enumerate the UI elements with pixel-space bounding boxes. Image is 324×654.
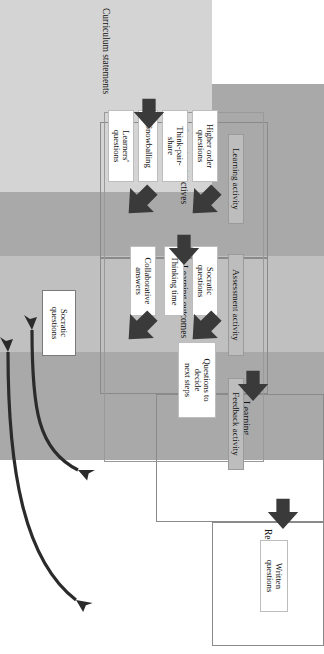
technique-label-questions-to-decide-next-steps: Questions to decide next steps xyxy=(183,358,211,401)
diagram-root: Curriculum statements Learning objective… xyxy=(0,0,324,654)
technique-label-learners-questions: Learners' questions xyxy=(112,130,131,162)
technique-label-thinking-time: Thinking time xyxy=(169,257,178,306)
technique-written-questions[interactable]: Written questions xyxy=(260,540,288,612)
activity-label-assessment-activity: Assessment activity xyxy=(232,269,241,341)
technique-think-pair-share[interactable]: Think-pair- share xyxy=(162,110,188,182)
technique-questions-to-decide-next-steps[interactable]: Questions to decide next steps xyxy=(178,342,216,418)
curved-arrow-to-reporting-head-end xyxy=(73,594,93,613)
activity-label-learning-activity: Learning activity xyxy=(232,148,241,210)
technique-thinking-time[interactable]: Thinking time xyxy=(164,246,184,316)
activity-assessment-activity[interactable]: Assessment activity xyxy=(228,254,244,356)
technique-label-written-questions: Written questions xyxy=(265,560,284,592)
activity-feedback-activity[interactable]: Feedback activity xyxy=(228,378,244,470)
activity-label-feedback-activity: Feedback activity xyxy=(232,392,241,456)
stage-label-curriculum-statements: Curriculum statements xyxy=(101,8,112,94)
technique-socratic-questions-side[interactable]: Socratic questions xyxy=(42,290,76,356)
technique-socratic-questions[interactable]: Socratic questions xyxy=(192,246,218,316)
diagram-canvas: Curriculum statements Learning objective… xyxy=(0,0,324,654)
technique-learners-questions[interactable]: Learners' questions xyxy=(108,110,134,182)
technique-label-snowballing: Snowballing xyxy=(143,124,152,167)
technique-label-socratic-questions-side: Socratic questions xyxy=(50,307,69,339)
technique-collaborative-answers[interactable]: Collaborative answers xyxy=(130,246,156,316)
technique-label-higher-order-questions: Higher order questions xyxy=(196,124,215,168)
technique-label-socratic-questions: Socratic questions xyxy=(196,265,215,297)
technique-label-collaborative-answers: Collaborative answers xyxy=(134,258,153,305)
curved-arrow-to-learning-targets-head-end xyxy=(76,463,95,482)
technique-higher-order-questions[interactable]: Higher order questions xyxy=(192,110,218,182)
technique-label-think-pair-share: Think-pair- share xyxy=(166,126,185,165)
technique-snowballing[interactable]: Snowballing xyxy=(138,110,158,182)
activity-learning-activity[interactable]: Learning activity xyxy=(228,134,244,224)
